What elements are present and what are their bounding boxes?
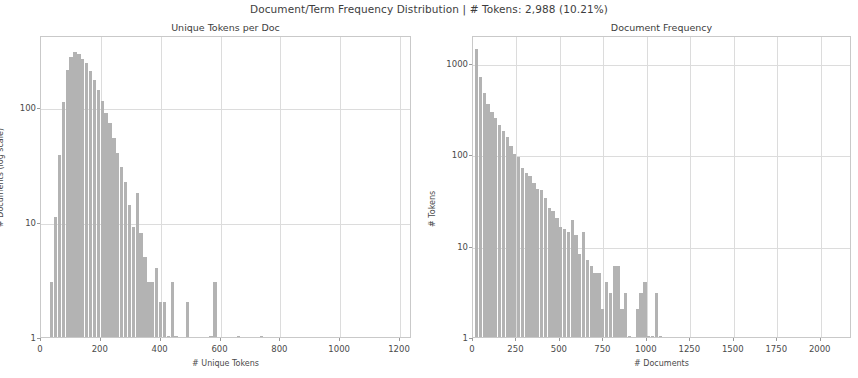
histogram-bar [69, 57, 72, 337]
gridline-vertical [221, 37, 222, 337]
histogram-bar [513, 154, 516, 337]
histogram-bar [89, 71, 92, 337]
histogram-bar [551, 211, 554, 337]
x-tick-mark [220, 338, 221, 341]
histogram-bar [167, 336, 170, 337]
x-tick-mark [602, 338, 603, 341]
y-tick-mark [37, 223, 40, 224]
histogram-bar [559, 227, 562, 337]
x-tick-label: 0 [15, 344, 65, 354]
histogram-bar [567, 232, 570, 337]
y-tick-label: 10 [438, 242, 468, 252]
histogram-bar [494, 118, 497, 337]
histogram-bar [571, 220, 574, 337]
gridline-vertical [821, 37, 822, 337]
gridline-vertical [647, 37, 648, 337]
histogram-bar [597, 273, 600, 337]
histogram-bar [624, 293, 627, 337]
histogram-bar [260, 336, 263, 337]
histogram-bar [128, 205, 131, 337]
histogram-bar [147, 282, 150, 337]
panel-document-frequency: Document Frequency 110100100002505007501… [420, 0, 858, 378]
histogram-bar [124, 182, 127, 337]
y-tick-label: 1 [6, 333, 36, 343]
histogram-bar [483, 93, 486, 337]
histogram-bar [586, 260, 589, 337]
gridline-vertical [734, 37, 735, 337]
histogram-bar [97, 90, 100, 337]
histogram-bar [490, 112, 493, 337]
gridline-vertical [690, 37, 691, 337]
x-tick-label: 2000 [795, 344, 845, 354]
x-tick-mark [515, 338, 516, 341]
y-tick-label: 10 [6, 218, 36, 228]
histogram-bar [593, 273, 596, 337]
histogram-bar [112, 138, 115, 337]
histogram-bar [475, 49, 478, 337]
histogram-bar [151, 282, 154, 337]
figure-canvas: Document/Term Frequency Distribution | #… [0, 0, 858, 378]
histogram-bar [605, 282, 608, 337]
histogram-bar [155, 268, 158, 337]
histogram-bar [132, 227, 135, 337]
x-tick-label: 800 [254, 344, 304, 354]
y-tick-mark [37, 108, 40, 109]
x-tick-mark [689, 338, 690, 341]
histogram-bar [659, 336, 662, 337]
x-tick-mark [339, 338, 340, 341]
histogram-bar [498, 125, 501, 337]
histogram-bar [509, 146, 512, 337]
x-tick-mark [279, 338, 280, 341]
histogram-bar [613, 266, 616, 337]
histogram-bar [647, 336, 650, 337]
x-tick-label: 400 [135, 344, 185, 354]
histogram-bar [62, 102, 65, 337]
panel-title-right: Document Frequency [472, 22, 851, 33]
histogram-bar [143, 257, 146, 337]
histogram-bar [73, 52, 76, 337]
gridline-vertical [777, 37, 778, 337]
y-tick-mark [469, 247, 472, 248]
histogram-bar [58, 155, 61, 337]
x-tick-mark [472, 338, 473, 341]
histogram-bar [636, 309, 639, 337]
histogram-bar [651, 336, 654, 337]
histogram-bar [174, 336, 177, 337]
histogram-bar [104, 113, 107, 337]
gridline-horizontal [473, 156, 850, 157]
histogram-bar [237, 336, 240, 337]
histogram-bar [506, 137, 509, 337]
histogram-bar [544, 198, 547, 337]
gridline-vertical [340, 37, 341, 337]
gridline-vertical [603, 37, 604, 337]
histogram-bar [639, 293, 642, 337]
histogram-bar [209, 336, 212, 337]
x-tick-mark [776, 338, 777, 341]
x-tick-mark [100, 338, 101, 341]
histogram-bar [643, 282, 646, 337]
histogram-bar [616, 266, 619, 337]
panel-title-left: Unique Tokens per Doc [40, 22, 411, 33]
x-tick-mark [559, 338, 560, 341]
histogram-bar [213, 282, 216, 337]
histogram-bar [555, 218, 558, 337]
x-tick-mark [160, 338, 161, 341]
x-tick-label: 600 [195, 344, 245, 354]
histogram-bar [620, 309, 623, 337]
histogram-bar [525, 173, 528, 337]
histogram-bar [101, 101, 104, 337]
histogram-bar [628, 336, 631, 337]
histogram-bar [532, 183, 535, 337]
x-tick-mark [646, 338, 647, 341]
y-axis-label: # Documents (log scale) [0, 128, 5, 227]
x-tick-mark [820, 338, 821, 341]
histogram-bar [574, 235, 577, 337]
histogram-bar [50, 282, 53, 337]
x-axis-label: # Documents [472, 359, 851, 368]
histogram-bar [536, 189, 539, 338]
x-tick-label: 1200 [374, 344, 424, 354]
histogram-bar [163, 302, 166, 337]
histogram-bar [517, 157, 520, 337]
y-tick-mark [469, 155, 472, 156]
x-tick-mark [40, 338, 41, 341]
